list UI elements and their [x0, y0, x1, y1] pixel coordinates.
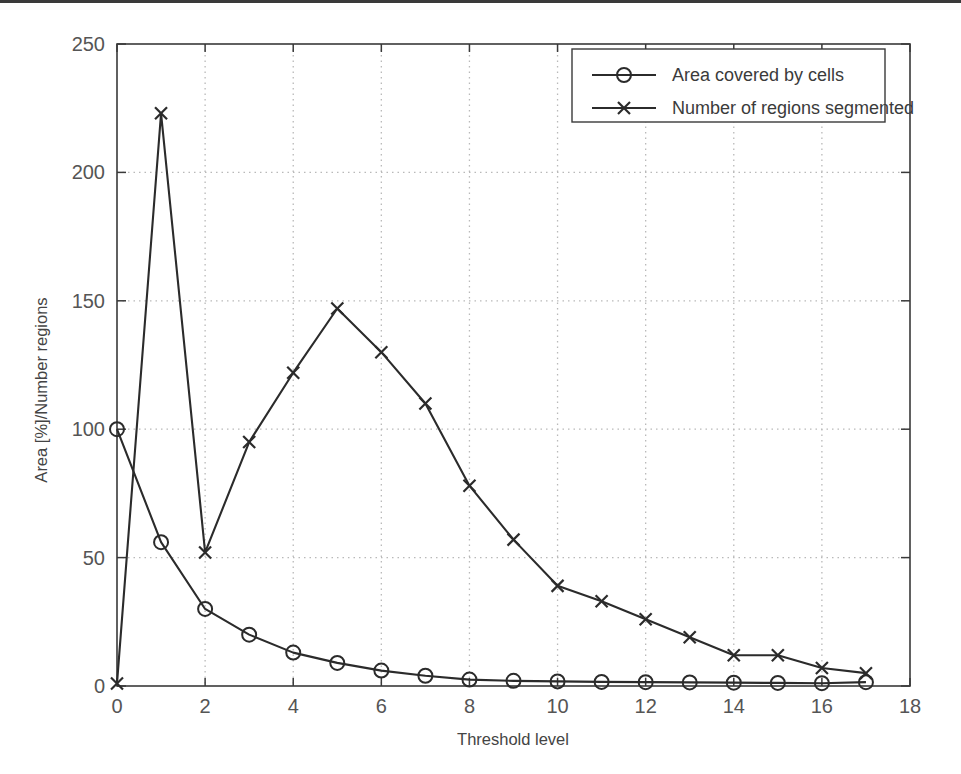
x-axis-title: Threshold level [457, 730, 569, 748]
x-tick-label: 4 [288, 695, 299, 717]
y-tick-label: 200 [72, 161, 105, 183]
figure-container: 024681012141618050100150200250 Threshold… [0, 0, 961, 774]
x-tick-label: 8 [464, 695, 475, 717]
x-tick-label: 16 [811, 695, 833, 717]
plot-background [117, 44, 910, 686]
y-tick-label: 150 [72, 290, 105, 312]
y-tick-label: 100 [72, 418, 105, 440]
legend: Area covered by cellsNumber of regions s… [572, 49, 914, 122]
x-tick-label: 18 [899, 695, 921, 717]
x-tick-label: 6 [376, 695, 387, 717]
legend-label: Area covered by cells [672, 65, 844, 85]
x-tick-label: 10 [546, 695, 568, 717]
legend-label: Number of regions segmented [672, 98, 914, 118]
page-top-border [0, 0, 961, 3]
y-tick-label: 250 [72, 33, 105, 55]
x-tick-label: 2 [200, 695, 211, 717]
y-tick-label: 0 [94, 675, 105, 697]
x-tick-label: 14 [723, 695, 745, 717]
x-tick-label: 12 [635, 695, 657, 717]
line-chart: 024681012141618050100150200250 Threshold… [0, 0, 961, 774]
x-tick-label: 0 [111, 695, 122, 717]
y-tick-label: 50 [83, 547, 105, 569]
y-axis-title: Area [%]/Number regions [32, 297, 50, 482]
